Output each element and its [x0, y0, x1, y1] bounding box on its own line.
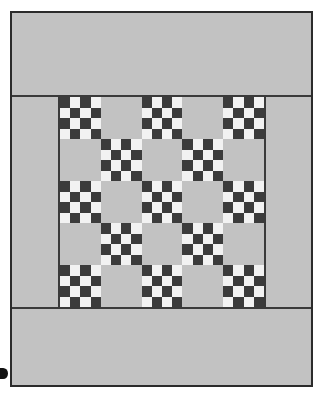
- patch-dark: [244, 118, 254, 129]
- patch-light: [244, 129, 254, 140]
- patch-light: [80, 213, 90, 224]
- patch-light: [233, 97, 243, 108]
- patch-dark: [101, 244, 111, 255]
- patch-light: [142, 276, 152, 287]
- patch-dark: [152, 192, 162, 203]
- patch-light: [213, 160, 223, 171]
- patch-light: [80, 297, 90, 308]
- patch-dark: [131, 255, 141, 266]
- patch-dark: [233, 213, 243, 224]
- patch-dark: [70, 108, 80, 119]
- patch-light: [111, 244, 121, 255]
- patch-light: [142, 129, 152, 140]
- patch-dark: [223, 286, 233, 297]
- patch-light: [101, 234, 111, 245]
- patch-light: [121, 255, 131, 266]
- patch-dark: [91, 108, 101, 119]
- patch-dark: [60, 118, 70, 129]
- quilt-block-checkerboard: [142, 265, 183, 307]
- patch-dark: [162, 286, 172, 297]
- quilt-block-plain: [142, 223, 183, 265]
- patch-dark: [142, 202, 152, 213]
- image-canvas: [0, 0, 317, 398]
- patch-dark: [223, 202, 233, 213]
- quilt-block-checkerboard: [142, 97, 183, 139]
- patch-light: [244, 276, 254, 287]
- patch-light: [162, 192, 172, 203]
- patch-dark: [213, 150, 223, 161]
- patch-light: [254, 265, 264, 276]
- patch-light: [172, 202, 182, 213]
- quilt-block-plain: [60, 139, 101, 181]
- patch-light: [172, 181, 182, 192]
- patch-light: [152, 181, 162, 192]
- patch-dark: [182, 223, 192, 234]
- patch-light: [223, 129, 233, 140]
- quilt-block-plain: [101, 97, 142, 139]
- patch-dark: [131, 171, 141, 182]
- patch-light: [233, 286, 243, 297]
- patch-dark: [80, 265, 90, 276]
- patch-light: [111, 223, 121, 234]
- patch-dark: [91, 297, 101, 308]
- patch-light: [193, 223, 203, 234]
- patch-dark: [244, 97, 254, 108]
- corner-marker-dot: [0, 368, 8, 379]
- patch-light: [91, 181, 101, 192]
- patch-light: [233, 265, 243, 276]
- patch-dark: [70, 129, 80, 140]
- patch-dark: [233, 129, 243, 140]
- quilt-block-plain: [182, 265, 223, 307]
- patch-light: [162, 129, 172, 140]
- sashing-line-right: [264, 97, 266, 307]
- patch-light: [101, 171, 111, 182]
- patch-light: [60, 129, 70, 140]
- patch-dark: [70, 276, 80, 287]
- patch-light: [80, 192, 90, 203]
- quilt-block-plain: [182, 97, 223, 139]
- patch-dark: [182, 139, 192, 150]
- patch-light: [80, 129, 90, 140]
- patch-light: [223, 213, 233, 224]
- patch-dark: [142, 118, 152, 129]
- patch-light: [91, 118, 101, 129]
- patch-light: [152, 97, 162, 108]
- patch-light: [182, 255, 192, 266]
- patch-dark: [80, 181, 90, 192]
- patch-light: [70, 118, 80, 129]
- patch-dark: [162, 181, 172, 192]
- patch-dark: [193, 255, 203, 266]
- patch-light: [244, 297, 254, 308]
- patch-dark: [101, 160, 111, 171]
- patch-dark: [152, 276, 162, 287]
- patch-dark: [182, 160, 192, 171]
- patch-dark: [91, 213, 101, 224]
- patch-dark: [80, 118, 90, 129]
- patch-light: [244, 213, 254, 224]
- patch-dark: [60, 265, 70, 276]
- patch-light: [254, 118, 264, 129]
- patch-dark: [203, 223, 213, 234]
- patch-light: [60, 276, 70, 287]
- patch-dark: [91, 129, 101, 140]
- quilt-block-checkerboard: [182, 139, 223, 181]
- patch-dark: [91, 192, 101, 203]
- patch-dark: [111, 150, 121, 161]
- patch-light: [172, 265, 182, 276]
- patch-dark: [244, 286, 254, 297]
- patch-light: [223, 276, 233, 287]
- patch-light: [172, 97, 182, 108]
- patch-dark: [233, 276, 243, 287]
- patch-light: [254, 286, 264, 297]
- quilt-block-checkerboard: [60, 265, 101, 307]
- patch-light: [101, 150, 111, 161]
- patch-light: [162, 276, 172, 287]
- patch-dark: [80, 202, 90, 213]
- patch-dark: [101, 223, 111, 234]
- quilt-block-checkerboard: [223, 181, 264, 223]
- patch-dark: [223, 265, 233, 276]
- patch-dark: [223, 181, 233, 192]
- patch-light: [60, 213, 70, 224]
- quilt-block-plain: [223, 223, 264, 265]
- patch-light: [223, 192, 233, 203]
